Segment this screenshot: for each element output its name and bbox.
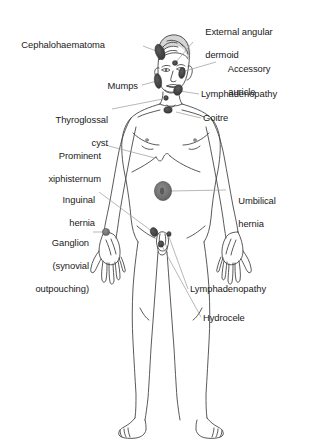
right-toes-2 [216,429,218,437]
leader-lymphadenopathy-groin [169,237,188,289]
right-toes-3 [212,428,214,437]
left-leg-inner [145,252,158,420]
left-finger-3 [109,263,114,284]
external-angular-dermoid-marker [172,61,177,66]
left-nipple [145,138,148,141]
neck-left [160,92,163,104]
thyroglossal-cyst-marker [164,96,169,101]
umbilical-hernia-core [160,188,164,195]
lesion-markers-group [102,43,186,247]
left-eyebrow [162,65,170,67]
right-leg-inner [167,252,180,420]
costal-margin-left [132,157,156,172]
right-hand-crease-2 [226,239,231,254]
left-leg-outer [132,242,138,418]
right-nipple [193,138,196,141]
neck-base [160,104,182,106]
right-knee-crease [193,308,202,320]
left-areola-crease [142,146,153,149]
right-finger-5 [217,257,223,272]
leader-lymphadenopathy-neck [180,91,199,94]
label-line: Inguinal [63,194,95,205]
label-line: Accessory [228,63,271,74]
right-hand-crease-1 [231,240,236,255]
label-line: Umbilical [238,195,276,206]
leader-goitre [176,112,201,118]
nose [171,71,176,82]
label-line: Prominent [59,150,101,161]
label-cephalohaematoma: Cephalohaematoma [0,39,105,50]
label-umbilical-hernia: Umbilical hernia [228,184,318,241]
label-line: Thyroglossal [55,114,108,125]
left-hand-crease-1 [106,240,111,255]
left-finger-5 [119,257,125,272]
right-leg-outer [204,242,210,418]
lymphadenopathy-groin-marker [167,231,171,236]
goitre-marker [164,107,172,113]
left-hand-crease-2 [111,239,116,254]
left-finger-2 [102,261,107,282]
label-line: hernia [238,218,264,229]
leader-thyroglossal-cyst [112,99,163,109]
label-lymphadenopathy-neck: Lymphadenopathy [201,88,318,99]
costal-margin-right [170,156,200,172]
label-lymphadenopathy-groin: Lymphadenopathy [190,283,318,294]
pelvic-crease-right [187,226,205,238]
label-line: (synovial [52,260,89,271]
left-foot [119,418,146,438]
mumps-marker [153,73,162,89]
leader-hydrocele [162,246,201,317]
medical-diagram-figure: Cephalohaematoma External angular dermoi… [0,0,318,443]
ganglion-marker [102,228,109,235]
left-toes-2 [124,429,126,437]
leader-umbilical-hernia [170,190,226,191]
leader-inguinal-hernia [99,192,153,232]
right-foot [196,418,223,438]
left-arm-outer [104,118,131,232]
label-ganglion: Ganglion (synovial outpouching) [0,226,89,306]
xiphisternum [156,154,170,161]
right-eyebrow [177,65,185,67]
penis-shaft-2 [165,234,166,245]
left-finger-4 [115,261,120,280]
label-line: External angular [205,26,272,37]
label-line: outpouching) [35,283,89,294]
label-goitre: Goitre [203,112,293,123]
right-areola-crease [189,146,200,149]
hydrocele-marker [158,241,164,247]
left-toes-3 [128,428,130,437]
right-finger-4 [222,261,227,280]
left-knee-crease [140,308,149,320]
right-finger-2 [235,261,240,282]
label-line: Ganglion [52,237,89,248]
label-mumps: Mumps [0,80,138,91]
label-hydrocele: Hydrocele [203,312,293,323]
right-finger-3 [228,263,233,284]
label-accessory-auricle: Accessory auricle [218,52,318,109]
left-pupil [165,69,167,71]
